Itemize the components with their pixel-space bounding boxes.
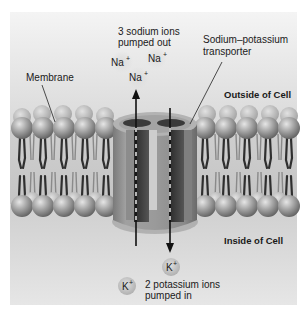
sodium-potassium-pump-diagram: 3 sodium ions pumped out Sodium–potassiu… <box>0 0 306 314</box>
svg-text:Na: Na <box>129 72 142 83</box>
svg-text:+: + <box>129 279 133 286</box>
membrane-right-top-heads <box>194 117 300 139</box>
svg-text:+: + <box>144 70 148 77</box>
transporter-label-line2: transporter <box>203 46 252 57</box>
svg-text:+: + <box>173 260 177 267</box>
svg-text:+: + <box>126 55 130 62</box>
potassium-caption-line1: 2 potassium ions <box>145 279 220 290</box>
inside-of-cell-label: Inside of Cell <box>224 235 283 246</box>
membrane-left-bottom-heads <box>11 195 117 217</box>
svg-text:Na: Na <box>148 53 161 64</box>
svg-text:Na: Na <box>111 57 124 68</box>
potassium-caption-line2: pumped in <box>145 290 192 301</box>
outside-of-cell-label: Outside of Cell <box>224 89 291 100</box>
membrane-label: Membrane <box>26 72 74 83</box>
svg-text:K: K <box>122 281 129 292</box>
sodium-potassium-transporter <box>112 112 198 234</box>
svg-text:K: K <box>166 262 173 273</box>
transporter-label-line1: Sodium–potassium <box>203 34 288 45</box>
svg-text:+: + <box>163 51 167 58</box>
sodium-caption-line2: pumped out <box>118 37 171 48</box>
membrane-left-top-heads <box>11 117 117 139</box>
sodium-caption-line1: 3 sodium ions <box>118 26 180 37</box>
membrane-right-bottom-heads <box>194 195 300 217</box>
